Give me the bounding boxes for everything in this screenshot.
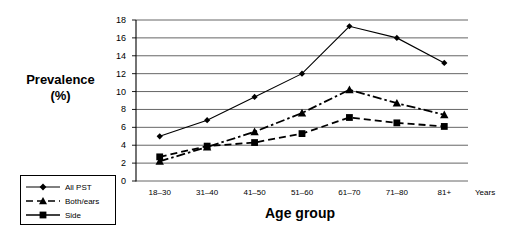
y-axis-label: Prevalence (%) xyxy=(8,72,113,104)
y-axis-label-line2: (%) xyxy=(8,88,113,104)
data-point xyxy=(394,35,400,41)
data-point xyxy=(346,114,353,121)
data-point xyxy=(345,86,353,94)
y-tick-4: 4 xyxy=(102,140,126,150)
data-point xyxy=(156,153,163,160)
data-point xyxy=(441,60,447,66)
data-point xyxy=(204,143,211,150)
data-point xyxy=(299,130,306,137)
y-tick-8: 8 xyxy=(102,104,126,114)
chart-figure: Prevalence (%) Age group Years 024681012… xyxy=(0,0,524,239)
legend-label-2: Side xyxy=(61,211,81,220)
legend-label-1: Both/ears xyxy=(61,197,99,206)
series-0 xyxy=(157,23,448,139)
x-tick-4: 61–70 xyxy=(326,188,372,197)
x-tick-2: 41–50 xyxy=(232,188,278,197)
data-point xyxy=(204,117,210,123)
legend-marker-triangle-icon xyxy=(25,195,61,207)
y-tick-12: 12 xyxy=(102,69,126,79)
y-tick-2: 2 xyxy=(102,158,126,168)
y-tick-6: 6 xyxy=(102,122,126,132)
legend: All PST Both/ears Side xyxy=(20,175,116,225)
legend-item-1[interactable]: Both/ears xyxy=(25,194,111,208)
x-tick-6: 81+ xyxy=(421,188,467,197)
legend-marker-diamond-icon xyxy=(25,181,61,193)
data-point xyxy=(251,139,258,146)
gridlines xyxy=(132,20,468,181)
legend-marker-square-icon xyxy=(25,209,61,221)
data-point xyxy=(251,94,257,100)
x-axis-unit-note: Years xyxy=(475,188,495,197)
data-point xyxy=(393,119,400,126)
x-tick-3: 51–60 xyxy=(279,188,325,197)
y-tick-10: 10 xyxy=(102,87,126,97)
y-tick-16: 16 xyxy=(102,33,126,43)
legend-label-0: All PST xyxy=(61,183,92,192)
data-point xyxy=(298,109,306,117)
x-axis-label: Age group xyxy=(170,205,430,221)
legend-item-0[interactable]: All PST xyxy=(25,180,111,194)
data-point xyxy=(441,123,448,130)
data-point xyxy=(250,128,258,136)
series-2 xyxy=(156,114,447,160)
x-tick-5: 71–80 xyxy=(374,188,420,197)
series-layer xyxy=(156,23,449,165)
x-tick-0: 18–30 xyxy=(137,188,183,197)
x-tick-1: 31–40 xyxy=(184,188,230,197)
data-point xyxy=(157,133,163,139)
y-tick-18: 18 xyxy=(102,15,126,25)
series-1 xyxy=(156,86,449,165)
y-tick-14: 14 xyxy=(102,51,126,61)
y-axis-label-line1: Prevalence xyxy=(26,72,95,87)
legend-item-2[interactable]: Side xyxy=(25,208,111,222)
